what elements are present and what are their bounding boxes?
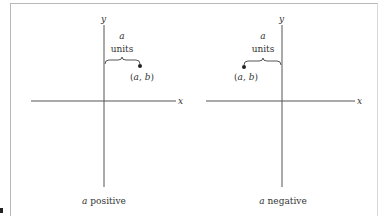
point-label: (a, b) <box>234 72 258 82</box>
point-label: (a, b) <box>130 72 154 82</box>
point-dot <box>242 65 246 69</box>
bracket-label-units: units <box>252 44 275 54</box>
curly-brace <box>105 57 140 64</box>
panel-a-negative: x y a units (a, b) a negative <box>206 14 362 206</box>
y-axis-label: y <box>100 14 107 24</box>
bracket-label-units: units <box>111 44 134 54</box>
caption: a positive <box>82 196 126 206</box>
point-dot <box>138 64 142 68</box>
y-axis-label: y <box>278 14 285 24</box>
bracket-label-a: a <box>260 31 265 41</box>
curly-brace <box>244 58 281 65</box>
x-axis-label: x <box>178 96 183 106</box>
bracket-label-a: a <box>119 31 124 41</box>
x-axis-label: x <box>357 96 362 106</box>
panel-a-positive: x y a units (a, b) a positive <box>31 14 183 206</box>
caption: a negative <box>259 196 306 206</box>
figure-canvas: x y a units (a, b) a positive x y a unit… <box>0 0 380 216</box>
